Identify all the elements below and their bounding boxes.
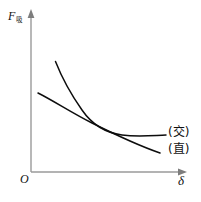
y-axis-label-subscript: 吸 — [16, 16, 23, 24]
y-axis-label-base: F — [8, 9, 15, 23]
x-axis-label: δ — [178, 174, 184, 187]
series-label-dc: (直) — [168, 143, 189, 155]
y-axis-label: F吸 — [8, 10, 23, 24]
y-axis-arrowhead — [28, 9, 35, 18]
origin-label: O — [20, 173, 29, 185]
dc-curve — [38, 93, 160, 153]
series-label-ac: (交) — [168, 126, 189, 138]
chart-plot-area — [0, 0, 201, 202]
force-vs-airgap-chart: F吸 O δ (交) (直) — [0, 0, 201, 202]
ac-curve — [56, 62, 167, 137]
